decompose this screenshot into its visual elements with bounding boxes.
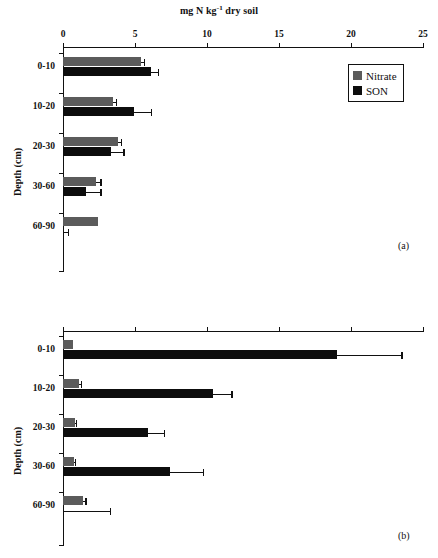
- x-tick-5: [135, 43, 136, 48]
- errorcap-nitrate-20-30: [76, 420, 77, 427]
- legend-swatch-nitrate: [353, 71, 362, 80]
- errorbar-son-30-60: [170, 472, 203, 473]
- y-tick-label-0-10: 0-10: [7, 61, 55, 71]
- bar-son-20-30: [63, 428, 148, 437]
- bar-nitrate-10-20: [63, 379, 79, 388]
- x-tick-label-20: 20: [336, 29, 366, 39]
- bar-nitrate-20-30: [63, 137, 118, 146]
- errorcap-son-60-90: [110, 508, 111, 515]
- legend-swatch-son: [353, 86, 362, 95]
- x-axis-title-tail: dry soil: [223, 5, 258, 16]
- x-axis-title-main: mg N kg: [180, 5, 217, 16]
- bar-son-0-10: [63, 350, 337, 359]
- errorbar-son-10-20: [134, 112, 151, 113]
- panel-b-tag: (b): [398, 530, 410, 541]
- legend-label-nitrate: Nitrate: [366, 70, 397, 82]
- x-tick-20: [351, 327, 352, 332]
- bar-son-0-10: [63, 67, 151, 76]
- bar-nitrate-0-10: [63, 340, 73, 349]
- y-tick-30-60: [59, 453, 64, 454]
- x-axis-title-top: mg N kg-1 dry soil: [0, 5, 438, 16]
- legend-label-son: SON: [366, 85, 388, 97]
- errorcap-son-0-10: [401, 352, 402, 359]
- x-tick-15: [279, 327, 280, 332]
- errorbar-son-0-10: [337, 355, 402, 356]
- bar-nitrate-10-20: [63, 97, 113, 106]
- bar-nitrate-0-10: [63, 57, 141, 66]
- panel-a: mg N kg-1 dry soil 05101520250-1010-2020…: [0, 0, 438, 290]
- y-axis-title: Depth (cm): [12, 148, 23, 196]
- y-tick-30-60: [59, 173, 64, 174]
- errorbar-son-0-10: [151, 72, 158, 73]
- x-tick-25: [423, 43, 424, 48]
- errorcap-son-20-30: [123, 149, 124, 156]
- bar-son-10-20: [63, 389, 213, 398]
- errorbar-son-60-90: [64, 511, 110, 512]
- bar-son-20-30: [63, 147, 111, 156]
- bar-son-30-60: [63, 467, 170, 476]
- legend-box: Nitrate SON: [348, 64, 404, 102]
- y-tick-20-30: [59, 414, 64, 415]
- errorcap-nitrate-30-60: [75, 459, 76, 466]
- errorbar-son-20-30: [148, 433, 164, 434]
- y-tick-label-60-90: 60-90: [7, 500, 55, 510]
- x-axis-line: [63, 331, 424, 332]
- errorcap-son-10-20: [231, 391, 232, 398]
- x-tick-label-25: 25: [408, 29, 438, 39]
- y-tick-20-30: [59, 133, 64, 134]
- errorcap-son-20-30: [164, 430, 165, 437]
- bar-son-10-20: [63, 107, 134, 116]
- y-tick-60-90: [59, 492, 64, 493]
- y-tick-10-20: [59, 375, 64, 376]
- x-tick-label-0: 0: [48, 29, 78, 39]
- bar-nitrate-60-90: [63, 217, 98, 226]
- x-axis-line: [63, 47, 424, 48]
- y-axis-end-tick: [59, 545, 64, 546]
- y-tick-label-10-20: 10-20: [7, 101, 55, 111]
- errorbar-son-30-60: [86, 192, 100, 193]
- panel-a-tag: (a): [398, 240, 409, 251]
- y-tick-0-10: [59, 53, 64, 54]
- errorcap-nitrate-0-10: [144, 59, 145, 66]
- bar-nitrate-20-30: [63, 418, 75, 427]
- x-tick-25: [423, 327, 424, 332]
- x-tick-label-5: 5: [120, 29, 150, 39]
- errorcap-nitrate-30-60: [100, 179, 101, 186]
- errorcap-son-30-60: [100, 189, 101, 196]
- y-tick-label-10-20: 10-20: [7, 383, 55, 393]
- bar-nitrate-60-90: [63, 496, 83, 505]
- y-tick-label-0-10: 0-10: [7, 344, 55, 354]
- y-tick-0-10: [59, 336, 64, 337]
- y-tick-10-20: [59, 93, 64, 94]
- errorcap-nitrate-60-90: [85, 498, 86, 505]
- errorcap-nitrate-10-20: [116, 99, 117, 106]
- y-axis-end-tick: [59, 271, 64, 272]
- legend-item-son: SON: [353, 83, 397, 98]
- bar-son-30-60: [63, 187, 86, 196]
- legend-item-nitrate: Nitrate: [353, 68, 397, 83]
- y-tick-label-60-90: 60-90: [7, 221, 55, 231]
- x-tick-5: [135, 327, 136, 332]
- x-tick-15: [279, 43, 280, 48]
- errorbar-son-10-20: [213, 394, 232, 395]
- errorcap-nitrate-20-30: [121, 139, 122, 146]
- y-axis-title: Depth (cm): [12, 427, 23, 475]
- panel-b: 0-1010-2020-3030-6060-90Depth (cm) (b): [0, 290, 438, 558]
- errorcap-son-0-10: [158, 69, 159, 76]
- x-tick-10: [207, 327, 208, 332]
- x-tick-10: [207, 43, 208, 48]
- errorcap-son-10-20: [151, 109, 152, 116]
- errorcap-nitrate-10-20: [81, 381, 82, 388]
- x-tick-20: [351, 43, 352, 48]
- errorcap-son-30-60: [203, 469, 204, 476]
- figure-container: mg N kg-1 dry soil 05101520250-1010-2020…: [0, 0, 438, 558]
- y-axis-line: [63, 47, 64, 272]
- y-tick-60-90: [59, 213, 64, 214]
- bar-nitrate-30-60: [63, 177, 96, 186]
- errorbar-son-20-30: [111, 152, 124, 153]
- bar-nitrate-30-60: [63, 457, 74, 466]
- x-tick-label-15: 15: [264, 29, 294, 39]
- errorcap-son-60-90: [68, 229, 69, 236]
- x-tick-label-10: 10: [192, 29, 222, 39]
